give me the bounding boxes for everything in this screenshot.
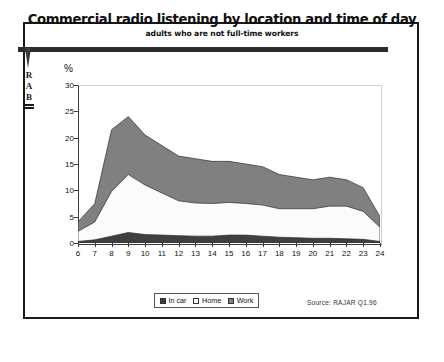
y-tick-mark [74, 217, 78, 218]
x-tick-mark [195, 243, 196, 247]
y-tick-label: 15 [54, 160, 74, 169]
plot-area [78, 85, 380, 243]
x-tick-mark [112, 243, 113, 247]
logo-letter-r: R [16, 70, 42, 80]
stacked-area-svg [78, 85, 380, 243]
x-tick-mark [145, 243, 146, 247]
y-tick-label: 10 [54, 186, 74, 195]
y-tick-mark [74, 243, 78, 244]
x-tick-label: 21 [322, 249, 338, 258]
x-tick-mark [279, 243, 280, 247]
y-tick-label: 25 [54, 107, 74, 116]
logo-underline-2 [25, 107, 34, 109]
x-tick-label: 11 [154, 249, 170, 258]
x-tick-mark [212, 243, 213, 247]
y-tick-mark [74, 190, 78, 191]
x-tick-label: 19 [288, 249, 304, 258]
x-tick-mark [246, 243, 247, 247]
x-tick-mark [330, 243, 331, 247]
x-tick-mark [313, 243, 314, 247]
y-tick-mark [74, 164, 78, 165]
x-tick-label: 16 [238, 249, 254, 258]
x-tick-label: 20 [305, 249, 321, 258]
y-axis-ticks: 051015202530 [44, 85, 74, 243]
chart-page: Commercial radio listening by location a… [0, 0, 444, 362]
x-tick-mark [179, 243, 180, 247]
chart-legend: In carHomeWork [154, 293, 259, 308]
x-tick-mark [162, 243, 163, 247]
x-tick-mark [263, 243, 264, 247]
x-tick-mark [229, 243, 230, 247]
x-tick-mark [296, 243, 297, 247]
x-tick-label: 17 [255, 249, 271, 258]
y-axis-unit-label: % [64, 63, 73, 74]
y-tick-mark [74, 111, 78, 112]
header-rule [18, 47, 388, 52]
y-tick-label: 20 [54, 133, 74, 142]
x-tick-label: 24 [372, 249, 388, 258]
x-tick-label: 13 [187, 249, 203, 258]
x-tick-label: 8 [104, 249, 120, 258]
x-tick-label: 6 [70, 249, 86, 258]
y-tick-label: 0 [54, 239, 74, 248]
x-tick-mark [95, 243, 96, 247]
y-tick-mark [74, 85, 78, 86]
wedge-icon [25, 48, 31, 68]
x-tick-mark [363, 243, 364, 247]
logo-letter-a: A [16, 81, 42, 91]
legend-swatch-icon [193, 298, 199, 304]
logo-letter-b: B [16, 92, 42, 102]
x-tick-label: 18 [271, 249, 287, 258]
y-tick-label: 30 [54, 81, 74, 90]
legend-item-in-car[interactable]: In car [160, 296, 186, 305]
x-tick-mark [346, 243, 347, 247]
x-tick-mark [78, 243, 79, 247]
x-axis-ticks: 6789101112131415161718192021222324 [78, 243, 380, 267]
logo-underline-1 [25, 104, 34, 106]
legend-label: Work [237, 296, 254, 305]
x-tick-label: 14 [204, 249, 220, 258]
x-tick-label: 23 [355, 249, 371, 258]
x-tick-label: 10 [137, 249, 153, 258]
x-tick-label: 9 [120, 249, 136, 258]
x-tick-label: 7 [87, 249, 103, 258]
legend-swatch-icon [228, 298, 234, 304]
x-tick-label: 12 [171, 249, 187, 258]
x-tick-label: 15 [221, 249, 237, 258]
legend-label: Home [202, 296, 221, 305]
y-tick-label: 5 [54, 212, 74, 221]
source-note: Source: RAJAR Q1.96 [307, 299, 377, 306]
y-tick-mark [74, 138, 78, 139]
legend-item-work[interactable]: Work [228, 296, 253, 305]
x-tick-mark [128, 243, 129, 247]
x-tick-mark [380, 243, 381, 247]
page-title: Commercial radio listening by location a… [0, 12, 444, 27]
legend-label: In car [169, 296, 187, 305]
legend-item-home[interactable]: Home [193, 296, 221, 305]
x-tick-label: 22 [338, 249, 354, 258]
page-subtitle: adults who are not full-time workers [0, 29, 444, 38]
rab-logo: R A B [16, 48, 42, 120]
legend-swatch-icon [160, 298, 166, 304]
